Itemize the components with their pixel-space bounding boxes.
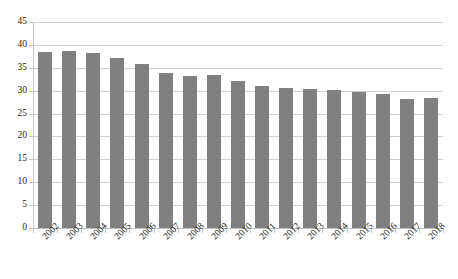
x-tick-8: [226, 229, 227, 233]
bar-series: [33, 22, 443, 228]
x-tick-13: [347, 229, 348, 233]
x-tick-4: [129, 229, 130, 233]
bar-2017: [400, 99, 414, 228]
bar-2009: [207, 75, 221, 228]
x-tick-9: [250, 229, 251, 233]
y-tick-5: [29, 205, 34, 206]
x-tick-5: [154, 229, 155, 233]
bar-2003: [62, 51, 76, 228]
bar-2014: [327, 90, 341, 228]
bar-2012: [279, 88, 293, 228]
y-tick-35: [29, 68, 34, 69]
y-tick-label-25: 25: [1, 109, 27, 119]
x-tick-16: [419, 229, 420, 233]
x-tick-3: [105, 229, 106, 233]
bar-2002: [38, 52, 52, 228]
x-tick-2: [81, 229, 82, 233]
bar-2011: [255, 86, 269, 228]
y-tick-label-35: 35: [1, 63, 27, 73]
y-tick-25: [29, 114, 34, 115]
y-tick-label-5: 5: [1, 200, 27, 210]
y-tick-label-15: 15: [1, 154, 27, 164]
x-tick-12: [322, 229, 323, 233]
bar-2008: [183, 76, 197, 228]
bar-2007: [159, 73, 173, 228]
bar-2004: [86, 53, 100, 228]
x-tick-10: [274, 229, 275, 233]
bar-2015: [352, 92, 366, 228]
bar-2013: [303, 89, 317, 228]
y-tick-label-0: 0: [1, 223, 27, 233]
bar-chart: 051015202530354045 200220032004200520062…: [0, 0, 458, 279]
y-tick-10: [29, 182, 34, 183]
x-axis-labels: 2002200320042005200620072008200920102011…: [33, 229, 443, 279]
y-tick-label-40: 40: [1, 40, 27, 50]
x-tick-0: [33, 229, 34, 233]
y-tick-45: [29, 22, 34, 23]
x-tick-11: [298, 229, 299, 233]
y-tick-label-45: 45: [1, 17, 27, 27]
y-tick-0: [29, 228, 34, 229]
bar-2006: [135, 64, 149, 228]
y-tick-label-20: 20: [1, 131, 27, 141]
bar-2005: [110, 58, 124, 228]
y-tick-40: [29, 45, 34, 46]
x-tick-end: [443, 229, 444, 233]
y-axis-labels: 051015202530354045: [0, 0, 27, 279]
y-tick-30: [29, 91, 34, 92]
x-tick-14: [371, 229, 372, 233]
y-tick-label-30: 30: [1, 86, 27, 96]
y-tick-20: [29, 136, 34, 137]
y-tick-15: [29, 159, 34, 160]
x-tick-6: [178, 229, 179, 233]
x-tick-15: [395, 229, 396, 233]
x-tick-1: [57, 229, 58, 233]
bar-2016: [376, 94, 390, 228]
bar-2010: [231, 81, 245, 228]
x-tick-7: [202, 229, 203, 233]
bar-2018: [424, 98, 438, 228]
y-tick-label-10: 10: [1, 177, 27, 187]
